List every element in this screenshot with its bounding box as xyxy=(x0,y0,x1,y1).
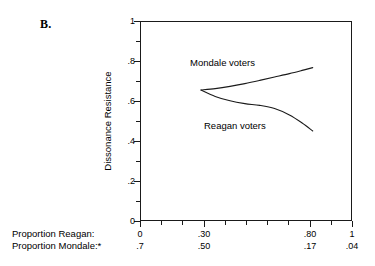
series-curve-mondale-voters xyxy=(201,68,313,90)
x-axis-tick-label: .7 xyxy=(120,241,160,251)
x-axis-major-tick xyxy=(204,221,205,227)
y-axis-tick-label: .4 xyxy=(111,137,135,146)
series-annotation-reagan-voters: Reagan voters xyxy=(204,120,266,131)
x-axis-tick-label: .04 xyxy=(332,241,372,251)
x-axis-tick-label: 1 xyxy=(332,229,372,239)
series-annotation-mondale-voters: Mondale voters xyxy=(190,57,255,68)
x-axis-minor-tick xyxy=(331,221,332,225)
y-axis-tick-label: .8 xyxy=(111,57,135,66)
x-axis-tick-label: 0 xyxy=(120,229,160,239)
x-axis-major-tick xyxy=(352,221,353,227)
x-axis-row-title-mondale: Proportion Mondale:* xyxy=(12,241,101,251)
x-axis-minor-tick xyxy=(288,221,289,225)
x-axis-minor-tick xyxy=(225,221,226,225)
x-axis-minor-tick xyxy=(182,221,183,225)
x-axis-tick-label: .50 xyxy=(184,241,224,251)
x-axis-minor-tick xyxy=(267,221,268,225)
y-axis-title: Dissonance Resistance xyxy=(101,21,115,221)
x-axis-major-tick xyxy=(140,221,141,227)
figure-panel-b: B. Dissonance Resistance 0.2.4.6.81 Mond… xyxy=(0,0,375,266)
x-axis-minor-tick xyxy=(161,221,162,225)
y-axis-tick-label: .2 xyxy=(111,177,135,186)
y-axis-tick-label: 0 xyxy=(111,217,135,226)
x-axis-tick-label: .17 xyxy=(290,241,330,251)
y-axis-tick-label: .6 xyxy=(111,97,135,106)
panel-label: B. xyxy=(40,18,51,30)
x-axis-minor-tick xyxy=(246,221,247,225)
x-axis-major-tick xyxy=(310,221,311,227)
x-axis-row-title-reagan: Proportion Reagan: xyxy=(12,229,94,239)
x-axis-tick-label: .30 xyxy=(184,229,224,239)
y-axis-tick-label: 1 xyxy=(111,17,135,26)
x-axis-tick-label: .80 xyxy=(290,229,330,239)
